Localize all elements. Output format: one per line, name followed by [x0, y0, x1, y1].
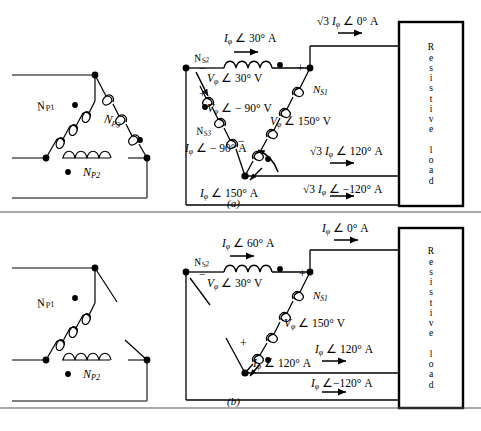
load-letter: a — [429, 369, 433, 379]
load-letter: l — [430, 349, 433, 359]
node-dot — [241, 172, 248, 179]
load-letter: v — [429, 114, 434, 124]
polarity-dot-np2-b — [65, 371, 71, 377]
load-letter: i — [430, 104, 433, 114]
resistive-load-b: Resistive load — [399, 228, 463, 408]
winding-label-ns3: NS3 — [195, 124, 211, 139]
line-current-a-0: √3 Iφ ∠ 0° A — [317, 16, 378, 29]
load-letter: R — [428, 42, 434, 52]
line-current-b-minus120: Iφ ∠−120° A — [311, 378, 373, 391]
load-letter — [430, 339, 432, 349]
load-letter: o — [429, 359, 434, 369]
caption-a: (a) — [227, 198, 240, 209]
phase-voltage-a-minus90: Vφ ∠ − 90° V — [207, 103, 272, 116]
polarity-dot-ns2-b — [277, 266, 283, 272]
load-letter: t — [430, 94, 433, 104]
load-letter: e — [429, 257, 433, 267]
line-current-a-minus120: √3 Iφ ∠ −120° A — [303, 184, 382, 197]
line-current-a-120: √3 Iφ ∠ 120° A — [310, 146, 383, 159]
winding-label-ns1: NS1 — [313, 84, 328, 97]
phase-current-a-minus90: Iφ ∠ − 90° A — [185, 143, 247, 156]
transformer-figure: NP1 NP2 NP3 NS2 NS1 NS3 Iφ ∠ 30° A √3 Iφ… — [0, 0, 481, 431]
panel-b-primary-wires — [12, 268, 147, 401]
load-letter: i — [430, 73, 433, 83]
winding-label-ns1-b: NS1 — [313, 290, 328, 303]
load-letter: s — [429, 287, 433, 297]
node-dot — [43, 357, 50, 364]
load-letter: i — [430, 308, 433, 318]
load-letter: t — [430, 298, 433, 308]
phase-voltage-b-30: Vφ ∠ 30° V — [207, 278, 262, 291]
node-dot — [92, 72, 99, 79]
resistive-load-a: Resistive load — [399, 22, 463, 206]
winding-label-np2-b: NP2 — [83, 368, 100, 382]
polarity-dot-np1 — [72, 102, 78, 108]
panel-a-primary-dots — [43, 72, 151, 175]
load-letter: v — [429, 318, 434, 328]
line-current-b-0: Iφ ∠ 0° A — [322, 223, 368, 236]
phase-voltage-b-150: Vφ ∠ 150° V — [284, 318, 345, 331]
caption-b: (b) — [227, 396, 240, 407]
load-letter: o — [429, 155, 434, 165]
node-dot — [307, 65, 314, 72]
open-stub-bottom — [125, 340, 147, 360]
load-letter: s — [429, 83, 433, 93]
panel-a-primary-wires — [12, 75, 147, 198]
load-letter: i — [430, 277, 433, 287]
node-dot — [92, 265, 99, 272]
load-letter: a — [429, 165, 433, 175]
polarity-minus-b1: − — [199, 268, 206, 280]
panel-b-delta-legs — [46, 268, 147, 360]
polarity-dot-np3 — [137, 137, 143, 143]
node-dot — [183, 269, 190, 276]
load-letter: l — [430, 145, 433, 155]
phase-current-a-30: Iφ ∠ 30° A — [224, 33, 276, 46]
open-stub-top — [95, 268, 117, 302]
panel-a-delta-legs — [46, 75, 147, 158]
load-letter: d — [429, 380, 434, 390]
polarity-plus-a2: + — [199, 88, 206, 100]
load-letter: s — [429, 267, 433, 277]
phase-voltage-a-150: Vφ ∠ 150° V — [270, 116, 331, 129]
node-dot — [307, 269, 314, 276]
phase-current-b-60: Iφ ∠ 60° A — [222, 238, 274, 251]
winding-label-np2: NP2 — [83, 166, 100, 180]
polarity-dot-np1-b — [72, 295, 78, 301]
load-letter: e — [429, 124, 433, 134]
node-dot — [144, 155, 151, 162]
node-dot — [43, 155, 50, 162]
load-letter: e — [429, 53, 433, 63]
load-letter: s — [429, 63, 433, 73]
node-dot — [183, 65, 190, 72]
phase-current-b-120: Iφ ∠ 120° A — [253, 358, 311, 371]
polarity-plus-a1: + — [297, 62, 304, 74]
polarity-dot-ns2 — [277, 62, 283, 68]
phase-voltage-a-30: Vφ ∠ 30° V — [207, 73, 262, 86]
load-letter — [430, 135, 432, 145]
node-dot — [144, 357, 151, 364]
load-letter: e — [429, 328, 433, 338]
polarity-minus-a1: − — [199, 62, 206, 74]
load-letter: R — [428, 246, 434, 256]
line-current-b-120: Iφ ∠ 120° A — [315, 344, 373, 357]
polarity-plus-b1: + — [299, 268, 306, 280]
polarity-dot-np2 — [65, 169, 71, 175]
node-dot — [241, 369, 248, 376]
load-letter: d — [429, 176, 434, 186]
polarity-plus-b2: + — [240, 337, 247, 349]
